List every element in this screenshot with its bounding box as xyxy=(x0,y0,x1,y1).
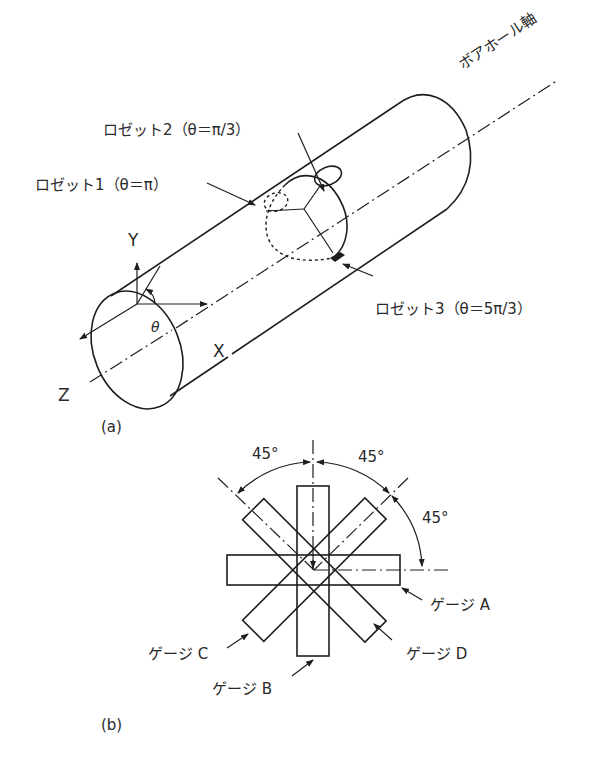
y-axis-label: Y xyxy=(128,232,138,249)
z-axis-label: Z xyxy=(58,387,70,404)
gauge-rosette xyxy=(218,440,448,676)
rosette-3-label: ロゼット3（θ＝5π/3） xyxy=(375,302,532,317)
gauge-b xyxy=(297,486,329,656)
rosette-2-label: ロゼット2（θ＝π/3） xyxy=(103,123,250,138)
rosette-1-label: ロゼット1（θ＝π） xyxy=(35,178,168,193)
measurement-section xyxy=(266,176,347,260)
figure-b-caption: (b) xyxy=(101,718,122,733)
figure-a-caption: (a) xyxy=(101,420,122,435)
angle-label-right: 45° xyxy=(358,450,385,465)
gauge-d-label: ゲージ D xyxy=(406,647,467,662)
borehole-axis-line xyxy=(90,330,172,382)
rosette-3-marker xyxy=(330,252,345,262)
theta-label: θ xyxy=(151,320,160,334)
angle-label-left: 45° xyxy=(252,447,279,462)
rosette-2-marker xyxy=(312,162,345,189)
angle-label-lower-right: 45° xyxy=(422,511,449,526)
x-axis-label: X xyxy=(213,343,225,360)
gauge-c-label: ゲージ C xyxy=(148,647,208,662)
cylinder-body xyxy=(74,95,470,423)
gauge-a-label: ゲージ A xyxy=(430,598,490,613)
gauge-b-label: ゲージ B xyxy=(212,682,272,697)
figure-a-drawing xyxy=(0,0,600,757)
